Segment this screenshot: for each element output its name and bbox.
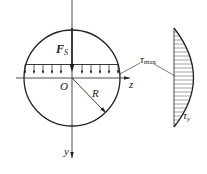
- origin-label: O: [60, 80, 68, 92]
- z-axis-label: z: [128, 78, 134, 90]
- tau-y-label: τy: [183, 109, 191, 123]
- shear-stress-diagram: FS O R z y τmax τy: [0, 0, 207, 174]
- shear-distribution: [174, 28, 200, 127]
- tau-max-leader-left: [120, 63, 140, 74]
- force-label: FS: [55, 42, 68, 57]
- tau-max-label: τmax: [140, 53, 156, 66]
- shear-force-arrowhead: [70, 64, 75, 72]
- y-axis-arrowhead: [70, 152, 74, 158]
- tau-max-leader-right: [154, 64, 175, 76]
- radius-line: [72, 78, 105, 112]
- radius-label: R: [91, 87, 99, 99]
- y-axis-label: y: [63, 145, 69, 157]
